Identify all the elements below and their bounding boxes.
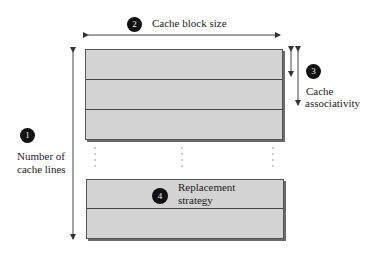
number-of-lines-label-1: Number of: [17, 150, 65, 163]
cache-block-top: [85, 49, 283, 140]
cache-line-divider: [87, 208, 283, 209]
cache-line-divider: [86, 79, 282, 80]
badge-1-icon: 1: [20, 128, 35, 143]
number-of-lines-label-2: cache lines: [17, 163, 66, 176]
replacement-label-1: Replacement: [178, 181, 235, 194]
badge-3-icon: 3: [306, 64, 321, 79]
associativity-label-2: associativity: [305, 97, 360, 110]
block-size-label: Cache block size: [152, 17, 227, 30]
replacement-label-2: strategy: [178, 194, 213, 207]
badge-4-icon: 4: [152, 188, 168, 204]
badge-2-icon: 2: [127, 17, 142, 32]
continuation-dots: [94, 147, 273, 166]
cache-line-divider: [86, 109, 282, 110]
